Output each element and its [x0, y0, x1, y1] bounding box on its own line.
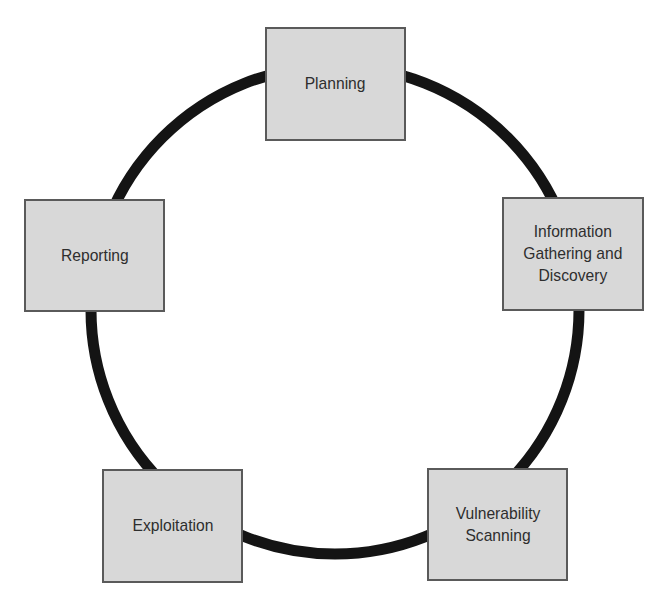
node-vulnerability-scanning: Vulnerability Scanning — [427, 468, 568, 581]
node-label: Exploitation — [132, 515, 213, 537]
node-label: Planning — [305, 73, 366, 95]
node-exploitation: Exploitation — [102, 469, 243, 583]
node-planning: Planning — [265, 27, 406, 141]
cycle-diagram: Planning Information Gathering and Disco… — [0, 0, 664, 608]
node-label: Vulnerability Scanning — [455, 503, 540, 547]
node-information-gathering: Information Gathering and Discovery — [502, 197, 644, 311]
node-reporting: Reporting — [24, 199, 165, 312]
node-label: Reporting — [61, 245, 129, 267]
node-label: Information Gathering and Discovery — [523, 221, 622, 287]
